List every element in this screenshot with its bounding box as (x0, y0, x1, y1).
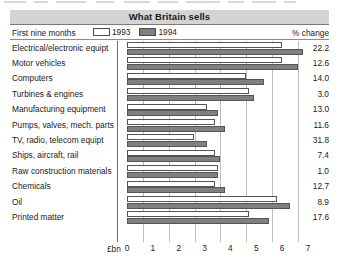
bar-pair (127, 134, 308, 148)
bar-1994 (127, 49, 303, 55)
bar-1993 (127, 211, 249, 217)
bar-1994 (127, 218, 269, 224)
bar-pair (127, 42, 308, 56)
axis-tick-label: 3 (202, 244, 207, 252)
pct-change-value: 1.0 (317, 167, 329, 175)
chart-subheader: First nine months 1993 1994 % change (10, 27, 329, 40)
bar-1993 (127, 119, 215, 125)
axis-tick-label: 7 (306, 244, 311, 252)
chart-row: Printed matter17.6 (10, 210, 329, 225)
bar-pair (127, 118, 308, 132)
legend-label-1994: 1994 (158, 27, 176, 37)
chart-row: Turbines & engines3.0 (10, 87, 329, 102)
legend-item-1993: 1993 (93, 27, 130, 37)
bar-1993 (127, 134, 194, 140)
category-label: Electrical/electronic equipt (12, 44, 108, 52)
bar-1993 (127, 165, 218, 171)
x-axis: £bn 01234567 (10, 242, 329, 256)
chart-row: Manufacturing equipment13.0 (10, 103, 329, 118)
chart-row: Raw construction materials1.0 (10, 164, 329, 179)
bar-pair (127, 57, 308, 71)
bar-1994 (127, 172, 218, 178)
chart-row: TV, radio, telecom equipt31.8 (10, 133, 329, 148)
category-label: Motor vehicles (12, 59, 66, 67)
bar-1993 (127, 104, 207, 110)
bar-1994 (127, 156, 220, 162)
scan-artifact (0, 0, 339, 8)
bar-1994 (127, 187, 225, 193)
chart-row: Electrical/electronic equipt22.2 (10, 41, 329, 56)
bar-1993 (127, 73, 246, 79)
chart-row: Ships, aircraft, rail7.4 (10, 149, 329, 164)
axis-tick-label: 6 (280, 244, 285, 252)
bar-1993 (127, 42, 282, 48)
axis-tick-label: 1 (151, 244, 156, 252)
category-label: Printed matter (12, 213, 64, 221)
bar-1994 (127, 64, 298, 70)
pct-change-value: 7.4 (317, 151, 329, 159)
axis-tick-labels: 01234567 (127, 242, 308, 256)
category-label: TV, radio, telecom equipt (12, 136, 103, 144)
category-label: Pumps, valves, mech. parts (12, 121, 114, 129)
category-label: Computers (12, 74, 53, 82)
bar-pair (127, 72, 308, 86)
chart-row: Computers14.0 (10, 72, 329, 87)
category-label: Turbines & engines (12, 90, 83, 98)
bar-1993 (127, 196, 277, 202)
bar-1994 (127, 203, 290, 209)
bar-pair (127, 103, 308, 117)
axis-tick-label: 2 (176, 244, 181, 252)
bar-1994 (127, 79, 264, 85)
chart-title-bar: What Britain sells (10, 10, 329, 25)
category-label: Oil (12, 198, 22, 206)
page-title: What Britain sells (129, 12, 211, 22)
bar-1994 (127, 110, 218, 116)
bar-rows: Electrical/electronic equipt22.2Motor ve… (10, 41, 329, 226)
pct-change-value: 12.6 (313, 59, 329, 67)
pct-change-value: 17.6 (313, 213, 329, 221)
axis-tick-label: 5 (254, 244, 259, 252)
pct-change-value: 8.9 (317, 198, 329, 206)
bar-pair (127, 149, 308, 163)
pct-change-value: 13.0 (313, 105, 329, 113)
pct-change-value: 22.2 (313, 44, 329, 52)
chart-row: Chemicals12.7 (10, 180, 329, 195)
legend: 1993 1994 (93, 27, 177, 37)
category-label: Ships, aircraft, rail (12, 151, 78, 159)
pct-change-value: 12.7 (313, 182, 329, 190)
chart-container: What Britain sells First nine months 199… (0, 0, 339, 266)
bar-pair (127, 165, 308, 179)
category-label: Raw construction materials (12, 167, 112, 175)
bar-1994 (127, 141, 207, 147)
axis-tick-label: 0 (125, 244, 130, 252)
pct-change-value: 11.6 (313, 121, 329, 129)
legend-swatch-1994 (139, 28, 156, 36)
bar-1994 (127, 126, 225, 132)
chart-row: Pumps, valves, mech. parts11.6 (10, 118, 329, 133)
header-divider (10, 39, 329, 40)
bar-pair (127, 195, 308, 209)
legend-label-1993: 1993 (112, 27, 130, 37)
bar-1994 (127, 95, 254, 101)
pct-change-value: 31.8 (313, 136, 329, 144)
bar-pair (127, 88, 308, 102)
period-label: First nine months (12, 28, 76, 38)
bar-1993 (127, 57, 282, 63)
bar-pair (127, 180, 308, 194)
category-label: Manufacturing equipment (12, 105, 106, 113)
pct-change-value: 3.0 (317, 90, 329, 98)
chart-row: Oil8.9 (10, 195, 329, 210)
legend-swatch-1993 (93, 28, 110, 36)
chart-row: Motor vehicles12.6 (10, 56, 329, 71)
axis-unit-label: £bn (107, 244, 121, 254)
pct-change-value: 14.0 (313, 74, 329, 82)
legend-item-1994: 1994 (139, 27, 176, 37)
axis-tick-label: 4 (228, 244, 233, 252)
category-label: Chemicals (12, 182, 51, 190)
bar-pair (127, 211, 308, 225)
bar-1993 (127, 181, 215, 187)
bar-1993 (127, 88, 249, 94)
pct-change-header: % change (292, 28, 329, 38)
bar-1993 (127, 150, 215, 156)
